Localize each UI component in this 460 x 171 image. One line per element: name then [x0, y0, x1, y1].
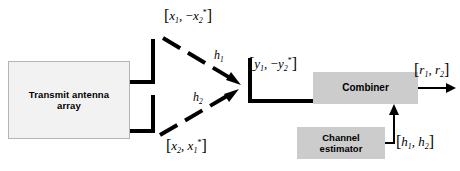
symbol-h2: h — [418, 134, 425, 149]
estimator-box-label-line1: Channel — [322, 132, 359, 143]
transmit-symbol-label-2: [x2, x1*] — [166, 136, 207, 154]
bracket-close-icon: ] — [292, 55, 297, 72]
symbol-y2: y — [278, 56, 284, 71]
symbol-h1-sub: 1 — [408, 142, 412, 151]
bracket-close-icon: ] — [207, 7, 212, 24]
channel-path-h1-arrowhead — [226, 72, 241, 85]
diagram-canvas: Transmit antenna array Combiner Channel … — [0, 0, 460, 171]
symbol-x1-sub: 1 — [193, 146, 197, 155]
transmit-symbol-label-1: [x1, −x2*] — [164, 6, 212, 24]
receive-signal-label: [y1, −y2*] — [249, 54, 297, 72]
symbol-x2-sub: 2 — [177, 146, 181, 155]
estimator-feed-arrowhead — [389, 104, 399, 115]
channel-gain-h1-label: h1 — [214, 48, 224, 63]
symbol-r1-sub: 1 — [424, 70, 428, 79]
bracket-open-icon: [ — [166, 137, 171, 154]
transmit-antenna-1-line — [130, 39, 153, 82]
channel-estimate-label: [h1, h2] — [396, 132, 434, 150]
symbol-h-sub: 2 — [199, 97, 203, 106]
estimator-box-label-line2: estimator — [320, 143, 363, 154]
bracket-close-icon: ] — [429, 133, 434, 150]
bracket-close-icon: ] — [444, 61, 449, 78]
channel-gain-h2-label: h2 — [193, 90, 203, 105]
bracket-open-icon: [ — [396, 133, 401, 150]
transmit-antenna-2-line — [130, 95, 153, 131]
bracket-open-icon: [ — [164, 7, 169, 24]
combiner-output-arrowhead — [446, 83, 456, 93]
bracket-open-icon: [ — [414, 61, 419, 78]
symbol-y1-sub: 1 — [260, 64, 264, 73]
channel-path-h1 — [163, 38, 237, 82]
symbol-h1: h — [401, 134, 408, 149]
symbol-separator: , − — [264, 56, 278, 71]
transmit-box-label-line1: Transmit antenna — [29, 89, 109, 100]
symbol-separator: , − — [179, 8, 193, 23]
bracket-open-icon: [ — [249, 55, 254, 72]
channel-path-h2-arrowhead — [224, 89, 239, 102]
symbol-y2-sub: 2 — [284, 64, 288, 73]
combiner-box[interactable]: Combiner — [313, 72, 418, 104]
symbol-x1-sub: 1 — [175, 16, 179, 25]
estimator-feed-line — [385, 112, 394, 143]
bracket-close-icon: ] — [201, 137, 206, 154]
symbol-x2-sub: 2 — [199, 16, 203, 25]
channel-estimator-box[interactable]: Channel estimator — [297, 127, 385, 159]
symbol-x2: x — [193, 8, 199, 23]
transmit-box-label-line2: array — [57, 100, 81, 111]
combiner-box-label: Combiner — [342, 82, 389, 94]
transmit-antenna-array-box[interactable]: Transmit antenna array — [8, 61, 130, 139]
symbol-h-sub: 1 — [220, 55, 224, 64]
combiner-output-label: [r1, r2] — [414, 60, 449, 78]
